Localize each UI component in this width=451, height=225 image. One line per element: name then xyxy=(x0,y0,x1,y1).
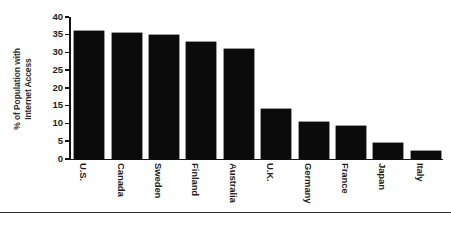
bar xyxy=(261,109,291,159)
y-axis-tick-label: 0 xyxy=(58,153,63,164)
bar xyxy=(224,49,254,159)
x-axis-tick-label: Germany xyxy=(303,163,314,204)
y-axis-tick-label: 30 xyxy=(52,46,63,57)
bar xyxy=(299,122,329,159)
x-axis-tick-label-wrap: Finland xyxy=(186,159,216,215)
y-axis-title-text: % of Population with Internet Access xyxy=(12,48,34,130)
x-axis-tick-label: Australia xyxy=(228,163,239,203)
x-axis-tick-label: Sweden xyxy=(153,163,164,198)
bar-series: U.S.CanadaSwedenFinlandAustraliaU.K.Germ… xyxy=(69,17,443,159)
bar xyxy=(411,151,441,159)
bar xyxy=(149,35,179,159)
y-axis-tick-label: 15 xyxy=(52,99,63,110)
bar xyxy=(373,143,403,159)
x-axis-tick-label-wrap: Germany xyxy=(299,159,329,215)
x-axis-tick-label-wrap: France xyxy=(336,159,366,215)
x-axis-tick-label-wrap: Japan xyxy=(373,159,403,215)
bar-group: Italy xyxy=(411,17,441,159)
bar xyxy=(74,31,104,159)
y-axis-tick-label: 5 xyxy=(58,135,63,146)
x-axis-tick-label: U.K. xyxy=(265,163,276,182)
bar xyxy=(186,42,216,159)
bar-group: France xyxy=(336,17,366,159)
x-axis-tick-label-wrap: Italy xyxy=(411,159,441,215)
bar-group: U.S. xyxy=(74,17,104,159)
bar xyxy=(336,126,366,159)
bottom-divider xyxy=(0,212,451,213)
y-axis-title-line-2: Internet Access xyxy=(23,48,34,130)
bar-chart-figure: % of Population with Internet Access 051… xyxy=(0,0,451,225)
y-axis-tick-label: 40 xyxy=(52,11,63,22)
bar-group: Sweden xyxy=(149,17,179,159)
x-axis-tick-label-wrap: Australia xyxy=(224,159,254,215)
bar xyxy=(112,33,142,159)
y-axis-tick-label: 10 xyxy=(52,117,63,128)
x-axis-tick-label: France xyxy=(340,163,351,194)
y-axis-tick-label: 20 xyxy=(52,82,63,93)
x-axis-tick-label: Finland xyxy=(190,163,201,196)
bar-group: Finland xyxy=(186,17,216,159)
x-axis-tick-label-wrap: Canada xyxy=(112,159,142,215)
bar-group: Germany xyxy=(299,17,329,159)
bar-group: Australia xyxy=(224,17,254,159)
x-axis-tick-label: Italy xyxy=(415,163,426,182)
x-axis-tick-label-wrap: U.S. xyxy=(74,159,104,215)
x-axis-tick-label: Japan xyxy=(377,163,388,190)
x-axis-tick-label: U.S. xyxy=(78,163,89,181)
bar-group: U.K. xyxy=(261,17,291,159)
y-axis-title-line-1: % of Population with xyxy=(12,48,22,130)
y-axis-title: % of Population with Internet Access xyxy=(6,18,40,160)
y-axis-tick-label: 25 xyxy=(52,64,63,75)
x-axis-tick-label: Canada xyxy=(116,163,127,197)
x-axis-tick-label-wrap: Sweden xyxy=(149,159,179,215)
bar-group: Canada xyxy=(112,17,142,159)
y-axis-tick-label: 35 xyxy=(52,28,63,39)
bar-group: Japan xyxy=(373,17,403,159)
x-axis-tick-label-wrap: U.K. xyxy=(261,159,291,215)
